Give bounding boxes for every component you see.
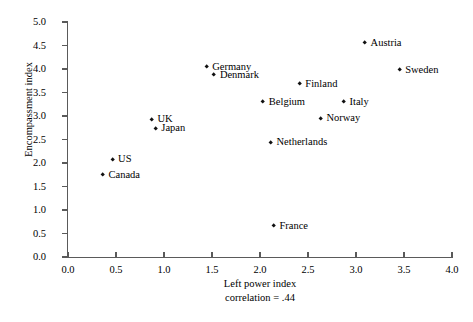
x-tick-label: 4.0 [432,264,472,275]
data-point-marker [110,157,115,162]
x-axis-title-block: Left power index correlation = .44 [68,277,452,305]
data-point-label: Canada [109,169,141,180]
data-point-label: Denmark [220,69,259,80]
x-tick-label: 3.0 [336,264,376,275]
data-point-label: US [118,153,131,164]
x-tick-label: 3.5 [384,264,424,275]
data-point-marker [341,100,346,105]
x-tick-label: 1.0 [144,264,184,275]
scatter-chart: 0.00.51.01.52.02.53.03.54.04.55.0 0.00.5… [0,0,473,322]
data-point-marker [397,68,402,73]
data-point-marker [268,140,273,145]
data-point-marker [297,82,302,87]
data-point-label: France [279,220,308,231]
data-point-marker [318,116,323,121]
y-tick-label: 5.0 [0,16,46,27]
y-axis-title: Encompassment index [23,30,34,190]
data-point-label: Belgium [269,96,305,107]
x-tick-label: 0.5 [96,264,136,275]
data-point-marker [212,73,217,78]
y-tick-label: 1.0 [0,204,46,215]
data-point-marker [271,224,276,229]
data-point-marker [204,64,209,69]
x-tick-label: 0.0 [48,264,88,275]
x-tick-label: 1.5 [192,264,232,275]
data-point-label: Netherlands [277,136,328,147]
data-point-marker [153,126,158,131]
data-point-label: Austria [371,37,402,48]
data-point-label: Italy [349,96,368,107]
data-point-marker [261,100,266,105]
data-point-label: Japan [161,122,185,133]
plot-area: CanadaUSUKJapanGermanyDenmarkBelgiumFran… [68,22,452,257]
correlation-annotation: correlation = .44 [68,291,452,305]
x-axis-title: Left power index [68,277,452,291]
data-point-marker [149,117,154,122]
data-point-label: Finland [305,78,337,89]
data-point-marker [100,172,105,177]
data-point-marker [362,41,367,46]
x-tick-label: 2.0 [240,264,280,275]
y-tick-label: 0.5 [0,228,46,239]
y-tick-label: 0.0 [0,251,46,262]
x-tick-label: 2.5 [288,264,328,275]
data-point-label: Sweden [405,64,438,75]
data-point-label: Norway [326,112,360,123]
